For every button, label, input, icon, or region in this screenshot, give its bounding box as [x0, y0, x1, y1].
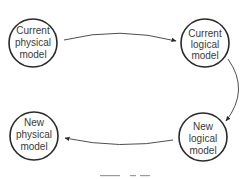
node-label-line: physical — [15, 37, 51, 48]
node-label-line: model — [191, 50, 218, 61]
node-label-line: model — [19, 49, 46, 60]
node-label-line: model — [20, 141, 47, 152]
diagram-canvas: Current physical model Current logical m… — [0, 0, 244, 179]
node-label-line: Current — [16, 25, 50, 36]
edge-current-logical-to-new-logical — [226, 59, 239, 121]
node-label-line: New — [24, 117, 45, 128]
figure-caption — [100, 175, 150, 176]
node-label-line: logical — [189, 133, 217, 144]
node-label-line: New — [193, 121, 214, 132]
node-new-logical-model: New logical model — [179, 113, 227, 161]
node-label-line: model — [189, 145, 216, 156]
node-new-physical-model: New physical model — [10, 112, 58, 160]
node-label-line: logical — [191, 39, 219, 50]
node-label-line: physical — [16, 129, 52, 140]
edge-new-logical-to-new-physical — [65, 138, 173, 145]
edge-current-physical-to-current-logical — [64, 33, 176, 41]
node-current-physical-model: Current physical model — [9, 19, 57, 67]
node-current-logical-model: Current logical model — [181, 19, 229, 67]
node-label-line: Current — [188, 28, 222, 39]
